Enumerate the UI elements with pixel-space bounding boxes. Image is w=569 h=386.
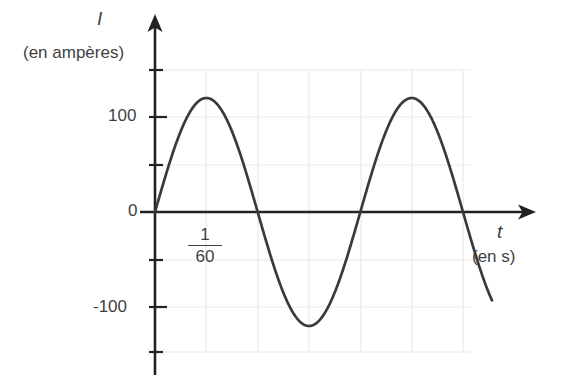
y-axis-title: I [97,8,102,29]
y-tick-label-100: 100 [108,106,136,125]
sine-curve-path [155,98,492,326]
x-tick-label-one-sixtieth: 1 60 [182,225,228,266]
x-axis-title: t [497,221,502,242]
sinusoidal-current-chart: I (en ampères) t (en s) 100 0 -100 1 60 [0,0,569,386]
fraction-numerator: 1 [182,225,228,245]
y-tick-label-0: 0 [128,201,137,220]
x-axis-units-label: (en s) [472,247,515,266]
y-axis-units-label: (en ampères) [23,43,124,62]
fraction-denominator: 60 [182,246,228,266]
y-tick-label-negative-100: -100 [93,297,127,316]
